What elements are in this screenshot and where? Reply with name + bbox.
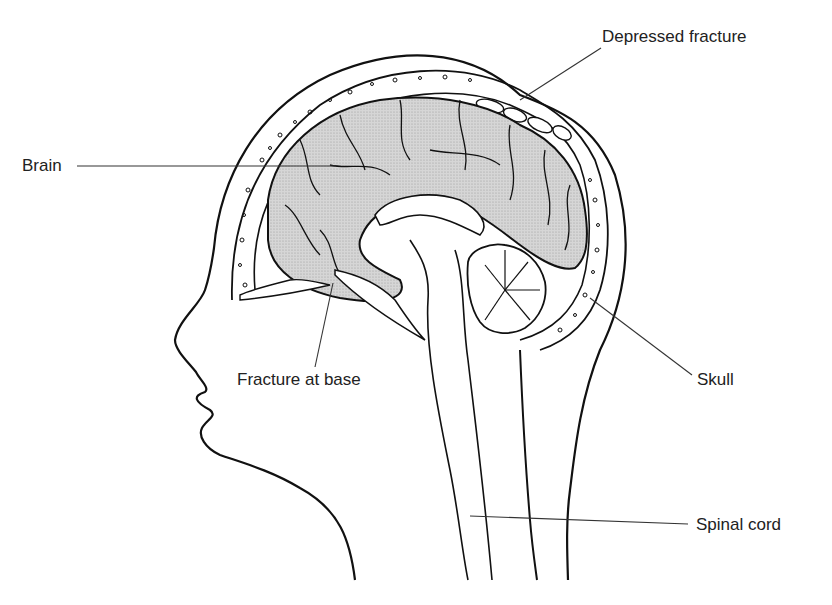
leader-fracture-at-base	[315, 283, 333, 367]
label-fracture-at-base: Fracture at base	[237, 371, 361, 388]
label-brain: Brain	[22, 157, 62, 174]
label-skull: Skull	[697, 371, 734, 388]
label-spinal-cord: Spinal cord	[696, 516, 781, 533]
spinal-column-back	[520, 350, 537, 580]
brainstem-spinal-cord	[410, 240, 468, 580]
label-depressed-fracture: Depressed fracture	[602, 28, 747, 45]
leader-spinal-cord	[470, 516, 688, 524]
leader-depressed-fracture	[520, 48, 601, 100]
